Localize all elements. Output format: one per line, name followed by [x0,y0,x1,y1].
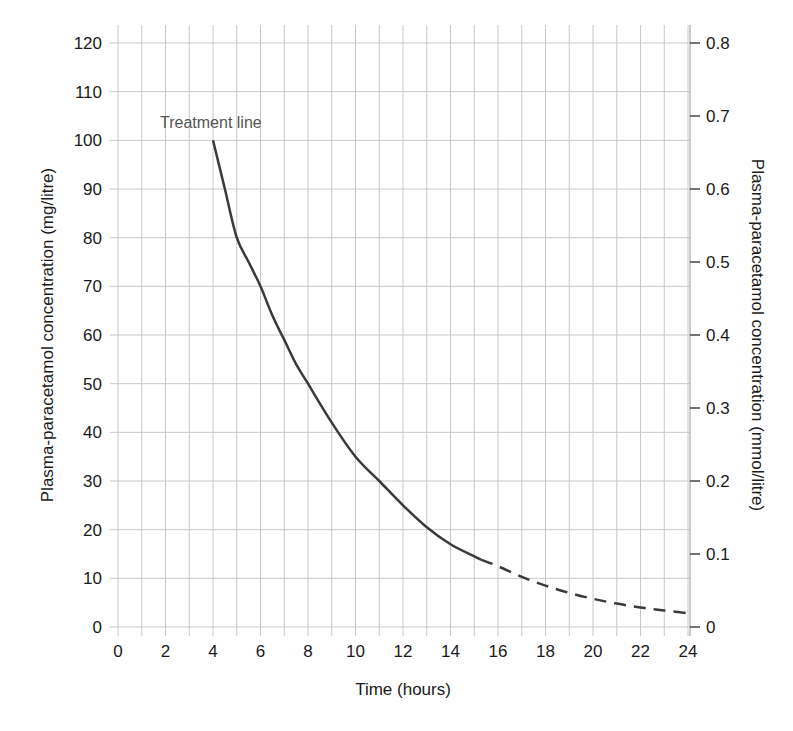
y-tick-label-left: 10 [83,569,102,588]
x-tick-label: 2 [161,642,170,661]
x-tick-label: 16 [489,642,508,661]
y-axis-label-right: Plasma-paracetamol concentration (mmol/l… [748,159,767,511]
x-axis-label: Time (hours) [355,680,451,699]
y-tick-label-left: 90 [83,180,102,199]
y-tick-label-left: 40 [83,423,102,442]
y-tick-label-left: 120 [74,34,102,53]
x-tick-label: 20 [584,642,603,661]
y-tick-label-right: 0.7 [706,107,730,126]
x-tick-label: 0 [113,642,122,661]
y-tick-label-left: 20 [83,521,102,540]
y-tick-label-right: 0.4 [706,326,730,345]
x-tick-label: 4 [208,642,217,661]
y-tick-label-right: 0.8 [706,34,730,53]
x-tick-label: 6 [256,642,265,661]
treatment-line-solid [213,140,481,560]
y-tick-label-left: 100 [74,131,102,150]
x-tick-label: 12 [394,642,413,661]
x-tick-label: 10 [346,642,365,661]
y-tick-label-left: 30 [83,472,102,491]
chart: 0102030405060708090100110120024681012141… [0,0,793,731]
x-tick-label: 14 [441,642,460,661]
y-tick-label-right: 0.5 [706,253,730,272]
y-tick-label-right: 0.6 [706,180,730,199]
y-tick-label-left: 50 [83,375,102,394]
x-tick-label: 8 [303,642,312,661]
y-tick-label-right: 0.2 [706,472,730,491]
x-tick-label: 22 [631,642,650,661]
y-tick-label-left: 80 [83,229,102,248]
y-tick-label-right: 0.3 [706,399,730,418]
treatment-line-dashed [481,560,688,614]
y-tick-label-left: 60 [83,326,102,345]
y-axis-label-left: Plasma-paracetamol concentration (mg/lit… [38,168,57,502]
y-tick-label-left: 70 [83,277,102,296]
treatment-line-annotation: Treatment line [160,114,262,131]
y-tick-label-right: 0 [706,618,715,637]
y-tick-label-right: 0.1 [706,545,730,564]
y-tick-label-left: 110 [75,83,102,102]
x-tick-label: 24 [679,642,698,661]
y-tick-label-left: 0 [93,618,102,637]
chart-canvas: 0102030405060708090100110120024681012141… [0,0,793,731]
x-tick-label: 18 [536,642,555,661]
